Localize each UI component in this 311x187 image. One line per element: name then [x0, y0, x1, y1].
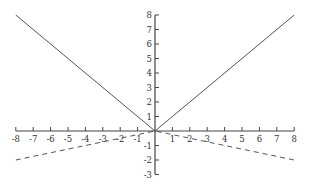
- x-tick-label: -7: [29, 134, 37, 144]
- x-tick-label: 6: [257, 134, 262, 144]
- y-tick-label: 2: [147, 97, 152, 107]
- chart-plot-area: -8-7-6-5-4-3-2-112345678-3-2-112345678: [0, 0, 311, 187]
- x-tick-label: -8: [12, 134, 20, 144]
- x-tick-label: -4: [81, 134, 89, 144]
- x-tick-label: 7: [274, 134, 279, 144]
- x-tick-label: 2: [187, 134, 192, 144]
- y-tick-label: -1: [144, 141, 152, 151]
- axes: -8-7-6-5-4-3-2-112345678-3-2-112345678: [12, 10, 297, 180]
- x-tick-label: 3: [204, 134, 209, 144]
- y-tick-label: 6: [147, 39, 152, 49]
- y-tick-label: 5: [147, 54, 152, 64]
- y-tick-label: 3: [147, 83, 152, 93]
- y-tick-label: 1: [147, 112, 152, 122]
- y-tick-label: -2: [144, 155, 152, 165]
- x-tick-label: 4: [222, 134, 227, 144]
- y-tick-label: 8: [147, 10, 152, 20]
- x-tick-label: 8: [291, 134, 296, 144]
- y-tick-label: 7: [147, 25, 152, 35]
- y-tick-label: 4: [147, 68, 152, 78]
- y-tick-label: -3: [144, 170, 152, 180]
- x-tick-label: -5: [64, 134, 72, 144]
- x-tick-label: 5: [239, 134, 244, 144]
- x-tick-label: -6: [46, 134, 54, 144]
- x-tick-label: 1: [170, 134, 175, 144]
